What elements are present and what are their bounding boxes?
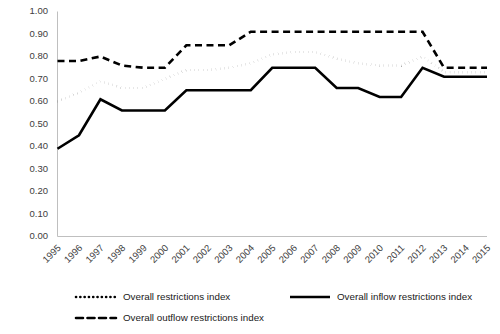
series-lines — [58, 32, 488, 149]
y-tick-label: 0.00 — [30, 230, 49, 241]
x-tick-label: 2008 — [319, 242, 342, 265]
x-tick-label: 2010 — [362, 242, 385, 265]
x-tick-label: 2012 — [405, 242, 428, 265]
y-tick-label: 0.50 — [30, 118, 49, 129]
x-tick-label: 1998 — [105, 242, 128, 265]
y-tick-label: 0.90 — [30, 28, 49, 39]
x-tick-label: 2015 — [470, 242, 493, 265]
legend-label: Overall inflow restrictions index — [337, 291, 472, 302]
x-tick-label: 2011 — [384, 242, 406, 264]
x-tick-label: 2006 — [276, 242, 299, 265]
y-tick-label: 0.40 — [30, 140, 49, 151]
x-tick-label: 1996 — [62, 242, 85, 265]
series-dashed — [58, 32, 488, 68]
x-tick-label: 2001 — [169, 242, 192, 265]
x-tick-label: 1997 — [83, 242, 106, 265]
x-tick-label: 2002 — [191, 242, 214, 265]
x-tick-label: 1995 — [40, 242, 63, 265]
axis-lines — [58, 12, 488, 237]
line-chart: 0.000.100.200.300.400.500.600.700.800.90… — [0, 0, 500, 334]
x-tick-label: 2003 — [212, 242, 235, 265]
y-tick-label: 0.10 — [30, 208, 49, 219]
series-dotted — [58, 52, 488, 102]
x-axis-tick-labels: 1995199619971998199920002001200220032004… — [40, 242, 492, 265]
series-solid — [58, 68, 488, 149]
x-tick-label: 2007 — [298, 242, 321, 265]
y-tick-label: 1.00 — [30, 5, 49, 16]
x-tick-label: 2000 — [148, 242, 171, 265]
x-tick-label: 2009 — [341, 242, 364, 265]
x-tick-label: 1999 — [126, 242, 149, 265]
y-tick-label: 0.30 — [30, 163, 49, 174]
y-tick-label: 0.80 — [30, 50, 49, 61]
chart-container: 0.000.100.200.300.400.500.600.700.800.90… — [0, 0, 500, 334]
y-tick-label: 0.60 — [30, 95, 49, 106]
legend-label: Overall outflow restrictions index — [123, 312, 264, 323]
y-tick-label: 0.70 — [30, 73, 49, 84]
legend-label: Overall restrictions index — [123, 291, 230, 302]
y-axis-tick-labels: 0.000.100.200.300.400.500.600.700.800.90… — [30, 5, 49, 241]
x-tick-label: 2005 — [255, 242, 278, 265]
x-tick-label: 2013 — [427, 242, 450, 265]
x-tick-label: 2014 — [448, 242, 471, 265]
x-tick-label: 2004 — [233, 242, 256, 265]
y-tick-label: 0.20 — [30, 185, 49, 196]
chart-legend: Overall restrictions indexOverall inflow… — [76, 291, 472, 323]
